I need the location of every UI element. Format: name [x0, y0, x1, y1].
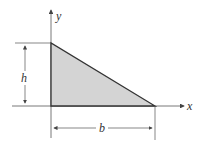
- triangle-area: [51, 43, 155, 106]
- y-axis-label: y: [56, 10, 61, 22]
- base-label: b: [99, 122, 105, 134]
- height-label: h: [21, 72, 27, 84]
- x-axis-label: x: [187, 100, 192, 112]
